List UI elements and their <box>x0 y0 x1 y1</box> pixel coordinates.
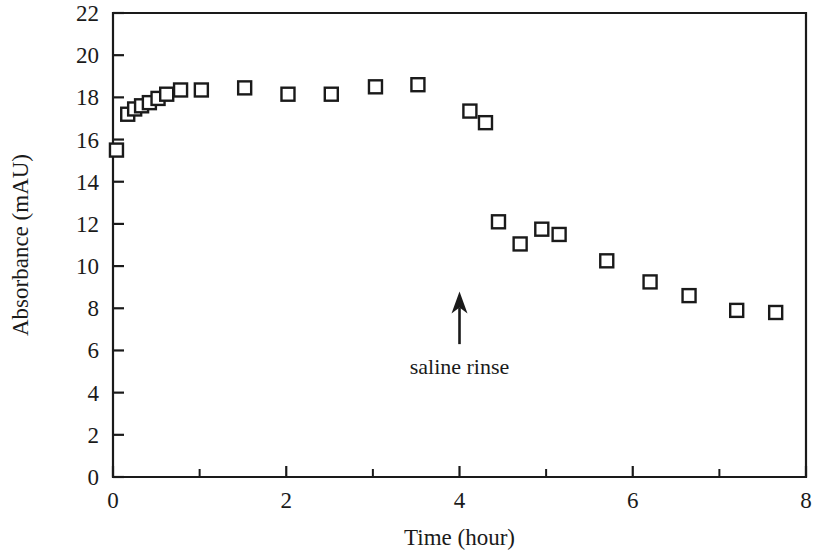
data-point-marker <box>492 215 505 228</box>
data-point-marker <box>514 237 527 250</box>
y-axis-tick-label: 8 <box>88 296 100 321</box>
data-point-marker <box>174 83 187 96</box>
data-point-marker <box>769 306 782 319</box>
data-point-marker <box>730 304 743 317</box>
y-axis-tick-label: 6 <box>88 338 100 363</box>
data-point-marker <box>553 228 566 241</box>
y-axis-tick-label: 12 <box>76 212 99 237</box>
data-point-marker <box>535 223 548 236</box>
data-point-marker <box>600 254 613 267</box>
plot-frame <box>113 13 806 477</box>
y-axis-tick-label: 10 <box>76 254 99 279</box>
data-point-marker <box>463 105 476 118</box>
x-axis-tick-label: 0 <box>107 488 119 513</box>
y-axis-tick-label: 20 <box>76 43 99 68</box>
y-axis-tick-label: 2 <box>88 423 100 448</box>
data-point-marker <box>369 80 382 93</box>
y-axis-tick-label: 4 <box>88 381 100 406</box>
data-point-marker <box>195 83 208 96</box>
y-axis-tick-label: 22 <box>76 1 99 26</box>
y-axis-title: Absorbance (mAU) <box>8 154 33 336</box>
data-point-marker <box>281 88 294 101</box>
x-axis-title: Time (hour) <box>404 525 515 550</box>
data-point-marker <box>411 78 424 91</box>
x-axis-tick-label: 6 <box>627 488 639 513</box>
x-axis-tick-label: 8 <box>800 488 812 513</box>
data-point-marker <box>160 88 173 101</box>
data-point-marker <box>325 88 338 101</box>
saline-rinse-annotation: saline rinse <box>410 291 510 378</box>
y-axis-tick-label: 18 <box>76 85 99 110</box>
data-series-absorbance <box>110 78 782 319</box>
data-point-marker <box>479 116 492 129</box>
y-axis-tick-label: 16 <box>76 128 99 153</box>
x-axis-tick-label: 4 <box>454 488 466 513</box>
y-axis-tick-label: 0 <box>88 465 100 490</box>
data-point-marker <box>683 289 696 302</box>
y-axis-tick-label: 14 <box>76 170 100 195</box>
data-point-marker <box>644 275 657 288</box>
absorbance-time-scatter-chart: 024681012141618202202468saline rinseTime… <box>0 0 823 552</box>
data-point-marker <box>110 144 123 157</box>
data-point-marker <box>238 81 251 94</box>
annotation-label-saline-rinse: saline rinse <box>410 354 510 379</box>
chart-page: 024681012141618202202468saline rinseTime… <box>0 0 823 552</box>
x-axis-tick-label: 2 <box>281 488 293 513</box>
